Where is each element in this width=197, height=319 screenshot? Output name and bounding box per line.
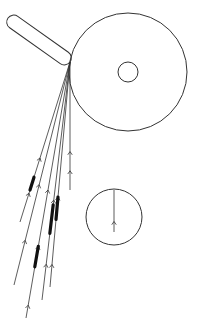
track-thick-segment <box>56 197 58 220</box>
inner-circle-outline <box>118 62 138 82</box>
track-line <box>14 62 70 285</box>
large-circle-outline <box>69 13 187 131</box>
large-circle <box>69 13 187 131</box>
inner-circle <box>118 62 138 82</box>
diagram-canvas <box>0 0 197 319</box>
tube-body <box>4 12 74 67</box>
source-tube <box>4 12 74 67</box>
particle-tracks-diagram <box>0 0 197 319</box>
track-thick-segment <box>30 177 34 190</box>
track-thick-segment <box>35 246 39 266</box>
small-circle-detector <box>86 189 142 245</box>
track-thick-segment <box>50 205 53 234</box>
particle-tracks <box>14 62 72 318</box>
track-3 <box>25 62 70 318</box>
track-2 <box>14 62 70 285</box>
track-line <box>50 62 70 287</box>
track-4 <box>42 62 70 300</box>
